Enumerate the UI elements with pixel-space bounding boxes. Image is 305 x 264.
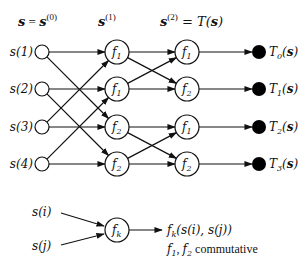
output-node <box>252 157 266 171</box>
legend-commutative-note: f1, f2 commutative <box>166 242 258 258</box>
edge-input-1-to-l1-3 <box>47 57 109 119</box>
legend-input-i: s(i) <box>32 205 52 219</box>
legend-edge-j <box>61 234 104 245</box>
input-node <box>35 120 49 134</box>
nodes: s(1)s(2)s(3)s(4)f1f1f2f2f1f2f1f2T0(s)T1(… <box>10 40 299 176</box>
output-label: T0(s) <box>269 45 299 61</box>
edge-input-2-to-l1-4 <box>47 94 109 156</box>
input-label: s(2) <box>10 82 33 96</box>
header-s1: s(1) <box>98 12 116 29</box>
input-label: s(1) <box>10 45 33 59</box>
input-node <box>35 82 49 96</box>
header-s2: s(2) = T(s) <box>160 12 223 29</box>
output-label: T2(s) <box>269 120 299 136</box>
output-node <box>252 82 266 96</box>
legend: s(i) s(j) fk fk(s(i), s(j)) f1, f2 commu… <box>32 205 258 258</box>
legend-result: fk(s(i), s(j)) <box>166 223 232 239</box>
butterfly-diagram: s = s(0) s(1) s(2) = T(s) s(1)s(2)s(3)s(… <box>0 0 305 264</box>
header-s0: s = s(0) <box>18 12 57 29</box>
output-node <box>252 45 266 59</box>
input-label: s(4) <box>10 157 33 171</box>
input-node <box>35 157 49 171</box>
input-label: s(3) <box>10 120 33 134</box>
legend-edge-i <box>61 213 104 226</box>
output-label: T3(s) <box>269 157 299 173</box>
edge-input-4-to-l1-2 <box>47 97 109 159</box>
output-label: T1(s) <box>269 82 299 98</box>
input-node <box>35 45 49 59</box>
legend-input-j: s(j) <box>32 239 52 253</box>
edge-input-3-to-l1-1 <box>47 60 109 122</box>
output-node <box>252 120 266 134</box>
edges <box>47 52 252 164</box>
